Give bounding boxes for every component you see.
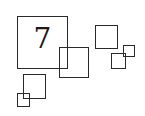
medium-overlap-square (59, 47, 89, 78)
bottom-left-tiny-square (17, 93, 30, 107)
right-tiny-square (123, 45, 135, 57)
right-upper-square (95, 25, 118, 49)
